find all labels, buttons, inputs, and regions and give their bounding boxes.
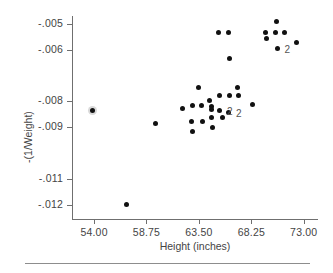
data-point [235,85,240,90]
data-point [190,129,195,134]
data-point [210,125,215,130]
data-point [250,102,255,107]
y-tick: -.011 [67,179,72,180]
y-tick: -.009 [67,127,72,128]
y-axis-title: -(1/Weight) [22,111,34,163]
data-point [263,30,268,35]
x-tick-label: 58.75 [133,226,160,238]
x-tick-label: 54.00 [80,226,107,238]
data-point [209,115,214,120]
data-point [207,98,212,103]
overplot-count-label: 2 [227,106,233,117]
overplot-count-label: 2 [284,44,290,55]
x-tick: 54.00 [94,219,95,224]
data-point [124,202,129,207]
data-point [294,40,299,45]
data-point [217,93,222,98]
x-tick-label: 68.25 [238,226,265,238]
data-point [236,93,241,98]
y-tick-label: -.006 [38,43,63,55]
data-point [200,119,205,124]
y-tick: -.005 [67,24,72,25]
footer-divider [25,263,310,264]
scatter-plot-figure: -(1/Weight) Height (inches) -.005-.006-.… [0,0,333,273]
x-axis-title: Height (inches) [72,240,318,252]
x-tick: 73.00 [304,219,305,224]
data-point [189,119,194,124]
data-point [227,56,232,61]
data-point [217,108,222,113]
data-point [180,106,185,111]
y-tick-label: -.011 [39,172,63,184]
x-tick: 63.50 [199,219,200,224]
data-point [273,30,278,35]
data-point [199,103,204,108]
data-point [264,36,269,41]
y-tick-label: -.008 [38,94,63,106]
data-point [153,121,158,126]
data-point [209,107,214,112]
x-tick: 58.75 [146,219,147,224]
data-point [275,46,280,51]
data-point [274,19,279,24]
y-tick: -.006 [67,50,72,51]
x-axis-line [72,219,318,220]
x-tick-label: 73.00 [290,226,317,238]
y-tick: -.012 [67,205,72,206]
data-point [190,103,195,108]
plot-area: -.005-.006-.008-.009-.011-.012 54.0058.7… [72,16,317,219]
data-point [227,93,232,98]
x-tick: 68.25 [251,219,252,224]
y-tick-label: -.005 [38,17,63,29]
data-point [196,85,201,90]
data-point [226,30,231,35]
y-tick-label: -.012 [38,198,63,210]
overplot-count-label: 2 [236,108,242,119]
data-point [216,30,221,35]
data-point [282,30,287,35]
y-tick-label: -.009 [38,120,63,132]
x-tick-label: 63.50 [185,226,212,238]
y-tick: -.008 [67,101,72,102]
data-point [90,108,95,113]
data-point [220,115,225,120]
